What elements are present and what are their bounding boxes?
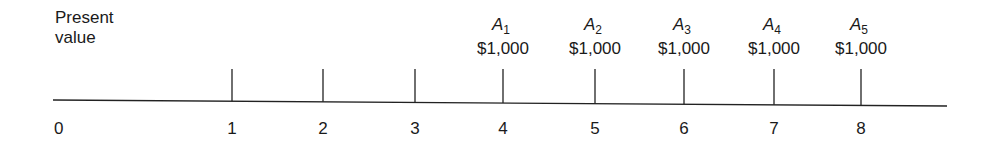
payment-amount-3: $1,000 [658, 39, 710, 58]
payment-label-2: A2 [583, 15, 602, 37]
timeline-axis [53, 100, 947, 106]
payment-label-1: A1 [491, 15, 510, 37]
payment-label-5: A5 [849, 15, 868, 37]
period-label-8: 8 [856, 119, 865, 138]
payment-label-3: A3 [672, 15, 691, 37]
period-label-6: 6 [679, 119, 688, 138]
period-label-5: 5 [590, 119, 599, 138]
period-label-0: 0 [54, 119, 63, 138]
payment-amount-1: $1,000 [477, 39, 529, 58]
payment-amount-2: $1,000 [569, 39, 621, 58]
period-label-1: 1 [227, 119, 236, 138]
period-label-7: 7 [769, 119, 778, 138]
period-label-4: 4 [498, 119, 507, 138]
timeline: 012345678 A1$1,000A2$1,000A3$1,000A4$1,0… [0, 0, 994, 144]
payment-label-4: A4 [762, 15, 781, 37]
payment-amount-4: $1,000 [748, 39, 800, 58]
period-label-3: 3 [410, 119, 419, 138]
period-label-2: 2 [318, 119, 327, 138]
payment-amount-5: $1,000 [835, 39, 887, 58]
